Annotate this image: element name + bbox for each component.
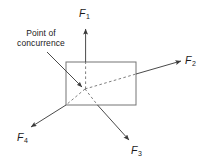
line-of-action-f3-dashed [85, 89, 98, 105]
force-label-f2: F2 [185, 54, 195, 66]
force-label-f4: F4 [17, 131, 27, 143]
body-rectangle [66, 62, 136, 105]
point-of-concurrence-label: Point of concurrence [8, 29, 74, 49]
line-of-action-f2-dashed [85, 74, 136, 89]
force-vector-f2 [136, 61, 181, 74]
line-of-action-f4-dashed [66, 89, 85, 105]
lines-of-action-dashed [66, 62, 136, 105]
force-vector-f3 [98, 105, 130, 140]
force-label-f3: F3 [131, 144, 141, 156]
force-diagram-figure: F1 F2 F3 F4 Point of concurrence [0, 0, 202, 166]
diagram-canvas [0, 0, 202, 166]
force-vector-f4 [31, 105, 66, 127]
callout-line-2: concurrence [8, 39, 74, 49]
force-label-f1: F1 [79, 7, 89, 19]
callout-leader-line [47, 52, 82, 87]
